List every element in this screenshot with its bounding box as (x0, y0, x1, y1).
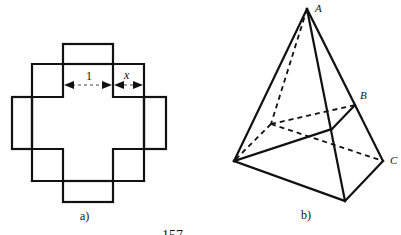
arrow-right-icon (102, 81, 112, 89)
figure-b-pyramid: A B C b) (234, 2, 398, 222)
hidden-edge-b (271, 105, 355, 124)
arrow-left-icon (114, 81, 124, 89)
hidden-edge-apex (271, 9, 307, 124)
vertex-label-a: A (314, 2, 322, 14)
page-number-fragment: 157 (162, 228, 183, 235)
figure-a-net: 1 x a) (12, 44, 166, 223)
edge-left-front (234, 161, 345, 201)
edge-apex-left (234, 9, 307, 161)
edge-apex-front (307, 9, 345, 201)
label-one: 1 (86, 69, 92, 83)
dimension-line (64, 81, 143, 89)
bottom-square (63, 181, 113, 202)
vertex-label-b: B (360, 89, 367, 101)
caption-b: b) (301, 208, 311, 222)
edge-left-mid (234, 129, 332, 161)
arrow-left-icon (64, 81, 74, 89)
lower-right-step (113, 149, 144, 181)
left-square (12, 97, 32, 149)
edge-apex-c (307, 9, 383, 161)
right-square (144, 97, 166, 149)
edge-front-c (345, 161, 383, 201)
upper-left-step (32, 64, 63, 97)
lower-left-step (32, 149, 63, 181)
diagram-canvas: 1 x a) A B C b) 157 (0, 0, 401, 235)
label-x: x (123, 68, 130, 82)
vertex-label-c: C (390, 154, 398, 166)
caption-a: a) (80, 209, 89, 223)
arrow-right-icon (133, 81, 143, 89)
top-square (63, 44, 113, 64)
